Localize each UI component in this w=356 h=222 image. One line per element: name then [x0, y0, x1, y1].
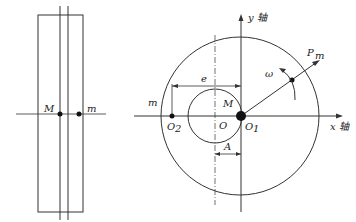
y-axis-label: y 轴	[247, 12, 268, 23]
A-right-arrow-icon	[236, 152, 241, 156]
e-right-arrow-icon	[235, 84, 241, 88]
x-axis-arrow-icon	[336, 114, 343, 119]
x-axis-label: x 轴	[330, 121, 350, 132]
O1-point	[236, 111, 246, 121]
label-O2-sub: 2	[174, 123, 181, 134]
mass-M-point	[58, 112, 63, 117]
label-m-right: m	[148, 97, 157, 108]
label-P-sub: m	[315, 50, 324, 61]
label-O1-sub: 1	[253, 123, 259, 134]
label-e: e	[201, 73, 207, 84]
label-P: P	[306, 47, 314, 58]
A-left-arrow-icon	[215, 152, 220, 156]
y-axis-arrow-icon	[239, 14, 244, 21]
right-front-view	[134, 14, 343, 212]
label-O1: O	[245, 121, 253, 132]
e-left-arrow-icon	[172, 84, 178, 88]
O2-point	[170, 114, 175, 119]
label-A: A	[223, 141, 231, 152]
label-omega: ω	[265, 68, 273, 79]
radial-line-Pm	[241, 62, 317, 116]
label-O2: O	[167, 121, 175, 132]
mass-m-point	[77, 112, 82, 117]
label-M-right: M	[222, 98, 234, 109]
label-M-left: M	[43, 103, 55, 114]
label-m-left: m	[87, 103, 96, 114]
label-O: O	[219, 120, 227, 131]
mechanism-diagram: M m y 轴 x 轴 P m ω e M m O O 1 O 2 A	[0, 0, 356, 222]
